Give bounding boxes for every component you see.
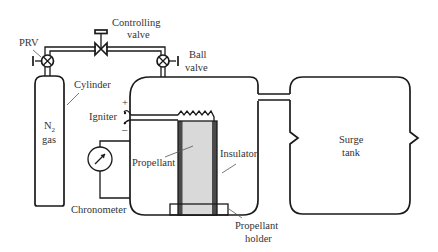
controlling-valve xyxy=(95,30,107,55)
prv-leader-line xyxy=(33,50,41,57)
cylinder-leader-line xyxy=(67,93,79,105)
ball-valve xyxy=(157,55,178,77)
igniter-label: Igniter xyxy=(89,111,117,122)
cylinder-neck xyxy=(45,67,50,76)
prv-valve xyxy=(33,55,54,67)
gas-label-line2: gas xyxy=(42,134,56,145)
surge-tank-label-1: Surge xyxy=(339,134,364,145)
chronometer xyxy=(88,147,112,171)
holder-label-2: holder xyxy=(245,233,272,244)
igniter-plus: + xyxy=(122,97,128,108)
surge-tank-label-2: tank xyxy=(342,147,361,158)
controlling-valve-label-2: valve xyxy=(127,29,150,40)
propellant-label: Propellant xyxy=(132,157,175,168)
insulator-label: Insulator xyxy=(220,148,258,159)
ball-valve-label-1: Ball xyxy=(189,49,207,60)
controlling-valve-label-1: Controlling xyxy=(112,17,161,28)
propellant-sample xyxy=(178,121,217,215)
holder-leader-line xyxy=(229,209,242,218)
cylinder-label: Cylinder xyxy=(74,79,111,90)
setup-diagram: N2 gas PRV Controlling valve Ball valve … xyxy=(0,0,438,252)
surge-tank xyxy=(290,77,418,214)
connecting-pipe xyxy=(258,94,290,100)
insulator-leader-line xyxy=(222,164,236,173)
ball-valve-label-2: valve xyxy=(185,62,208,73)
gas-label: N2 xyxy=(44,120,56,134)
chronometer-label: Chronometer xyxy=(71,204,127,215)
igniter-minus: – xyxy=(121,124,128,135)
prv-label: PRV xyxy=(19,37,39,48)
holder-label-1: Propellant xyxy=(235,220,278,231)
